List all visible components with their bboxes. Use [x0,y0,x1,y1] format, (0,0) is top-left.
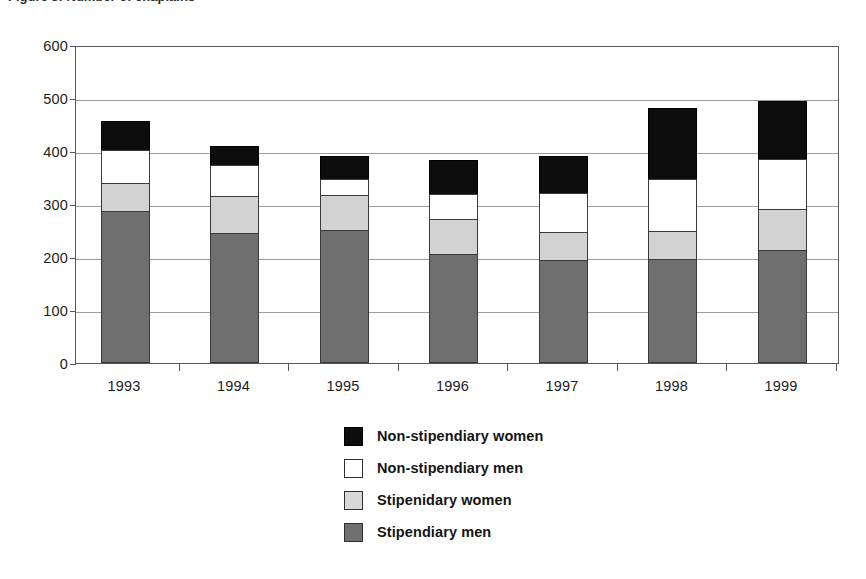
y-axis: 0100200300400500600 [0,0,68,579]
bar-segment [648,108,697,178]
white-swatch [344,459,363,478]
bar-segment [758,159,807,209]
legend-item-label: Stipenidary women [377,492,512,508]
x-axis-tick-label: 1998 [632,378,712,394]
bar-segment [210,196,259,233]
legend-item-label: Non-stipendiary women [377,428,543,444]
bar-segment [101,150,150,183]
bar-segment [539,232,588,261]
x-axis-tick-label: 1993 [84,378,164,394]
legend-item: Stipenidary women [344,484,674,516]
x-axis-tick-label: 1994 [194,378,274,394]
bar-segment [648,259,697,363]
x-axis-tick-mark [836,364,837,371]
bar-segment [101,183,150,211]
x-axis-tick-label: 1995 [303,378,383,394]
bar-segment [539,156,588,193]
x-axis-tick-mark [726,364,727,371]
y-axis-tick-mark [70,99,76,100]
bar-segment [429,219,478,253]
legend-item-label: Non-stipendiary men [377,460,523,476]
y-axis-tick-mark [70,152,76,153]
stacked-bar-chart: 0100200300400500600 19931994199519961997… [0,0,866,579]
y-axis-tick-mark [70,205,76,206]
x-axis: 1993199419951996199719981999 [75,364,839,424]
bar-stack [210,146,259,363]
y-axis-tick-label: 0 [6,356,68,372]
bar-stack [429,160,478,363]
legend-item: Non-stipendiary men [344,452,674,484]
bar-segment [539,193,588,232]
legend-item: Stipendiary men [344,516,674,548]
bar-segment [320,230,369,363]
bar-segment [429,254,478,363]
bar-stack [758,101,807,363]
y-axis-tick-label: 600 [6,38,68,54]
chart-legend: Non-stipendiary womenNon-stipendiary men… [344,420,674,548]
legend-item-label: Stipendiary men [377,524,491,540]
x-axis-tick-mark [288,364,289,371]
bar-segment [758,250,807,363]
bar-segment [210,233,259,363]
y-axis-tick-mark [70,258,76,259]
x-axis-tick-label: 1999 [741,378,821,394]
bar-segment [429,160,478,194]
bar-stack [101,121,150,363]
x-axis-tick-mark [179,364,180,371]
gridline [76,100,838,101]
y-axis-tick-mark [70,46,76,47]
x-axis-tick-mark [398,364,399,371]
bar-segment [210,165,259,195]
light-gray-swatch [344,491,363,510]
bar-segment [320,179,369,195]
bar-stack [648,108,697,363]
y-axis-tick-label: 100 [6,303,68,319]
y-axis-tick-label: 400 [6,144,68,160]
bar-segment [429,194,478,219]
bar-segment [758,101,807,159]
plot-area [75,46,839,364]
bar-segment [320,156,369,179]
bar-stack [320,156,369,363]
gridline [76,153,838,154]
y-axis-tick-mark [70,364,76,365]
dark-gray-swatch [344,523,363,542]
bar-stack [539,156,588,363]
y-axis-tick-label: 500 [6,91,68,107]
bar-segment [539,260,588,363]
bar-segment [320,195,369,230]
bar-segment [101,211,150,363]
y-axis-tick-mark [70,311,76,312]
bar-segment [101,121,150,150]
bar-segment [210,146,259,165]
x-axis-tick-mark [507,364,508,371]
x-axis-tick-label: 1997 [522,378,602,394]
black-swatch [344,427,363,446]
x-axis-tick-mark [617,364,618,371]
bar-segment [758,209,807,250]
y-axis-tick-label: 300 [6,197,68,213]
x-axis-tick-label: 1996 [413,378,493,394]
bar-segment [648,179,697,231]
legend-item: Non-stipendiary women [344,420,674,452]
y-axis-tick-label: 200 [6,250,68,266]
bar-segment [648,231,697,259]
